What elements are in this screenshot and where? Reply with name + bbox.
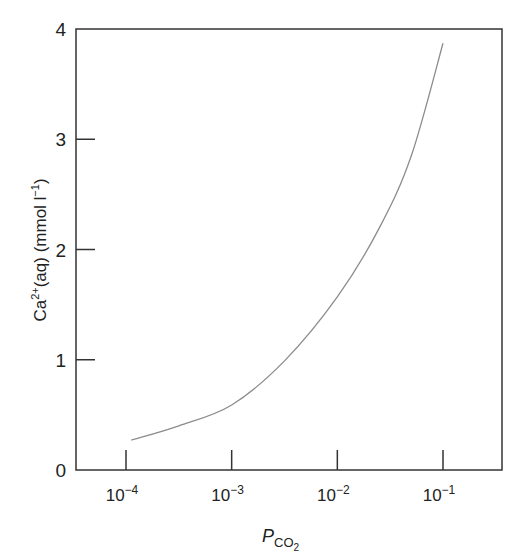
x-tick-label: 10−3 [211, 483, 244, 505]
y-tick-label: 2 [55, 240, 66, 261]
y-axis-label: Ca2+(aq) (mmol l−1) [29, 178, 50, 321]
data-curve [131, 43, 443, 440]
x-tick-label: 10−2 [317, 483, 350, 505]
chart: 01234 10−410−310−210−1 PCO2 Ca2+(aq) (mm… [0, 0, 523, 559]
y-tick-label: 4 [55, 19, 66, 40]
y-axis-ticks: 01234 [55, 19, 95, 481]
x-tick-label: 10−4 [106, 483, 139, 505]
y-tick-label: 3 [55, 129, 66, 150]
x-tick-label: 10−1 [423, 483, 456, 505]
y-tick-label: 0 [55, 460, 66, 481]
plot-frame [76, 29, 502, 470]
x-axis-ticks: 10−410−310−210−1 [106, 450, 456, 505]
y-tick-label: 1 [55, 350, 66, 371]
x-axis-label: PCO2 [262, 526, 300, 553]
